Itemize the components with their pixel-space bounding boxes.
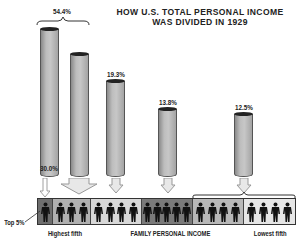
person-icon (56, 202, 65, 222)
person-icon (67, 202, 76, 222)
label-highest-fifth: Highest fifth (48, 230, 82, 237)
annotation-pointer-line (24, 210, 42, 224)
person-icon (283, 202, 292, 222)
person-icon (231, 202, 240, 222)
arrow-down-icon (40, 178, 50, 198)
annotation-top-5: Top 5% (4, 219, 24, 226)
bar-lowest-two-fifths (234, 114, 253, 177)
section-third-fifth (142, 199, 193, 224)
section-lowest-fifth (244, 199, 295, 224)
bar-second-fifth (106, 81, 125, 177)
person-icon (247, 202, 256, 222)
section-rest-highest-fifth (53, 199, 91, 224)
bar-label-second-fifth: 19.3% (107, 71, 125, 78)
person-icon (162, 202, 171, 222)
person-icon (153, 202, 162, 222)
arrow-down-icon (108, 178, 124, 194)
person-icon (143, 202, 152, 222)
bracket-highest-fifth (36, 16, 90, 26)
chart-root: HOW U.S. TOTAL PERSONAL INCOME WAS DIVID… (0, 0, 296, 243)
bracket-label: 54.4% (53, 8, 71, 15)
bar-top-5 (40, 29, 59, 177)
person-icon (208, 202, 217, 222)
person-icon (219, 202, 228, 222)
arrow-down-icon (160, 178, 176, 194)
person-icon (259, 202, 268, 222)
person-icon (271, 202, 280, 222)
person-icon (94, 202, 103, 222)
person-icon (182, 202, 191, 222)
title-line-2: WAS DIVIDED IN 1929 (114, 17, 287, 27)
person-icon (79, 202, 88, 222)
population-strip (37, 198, 296, 225)
person-icon (117, 202, 126, 222)
arrow-down-large-icon (60, 178, 98, 195)
bar-label-top-5: 30.0% (40, 165, 58, 172)
person-icon (196, 202, 205, 222)
bar-label-lowest: 12.5% (235, 104, 253, 111)
section-second-fifth (91, 199, 142, 224)
bar-label-third-fifth: 13.8% (159, 99, 177, 106)
x-axis-label: FAMILY PERSONAL INCOME (130, 230, 210, 237)
bar-third-fifth (158, 109, 177, 177)
label-lowest-fifth: Lowest fifth (254, 230, 287, 237)
person-icon (129, 202, 138, 222)
section-fourth-fifth (193, 199, 244, 224)
bar-rest-highest-fifth (70, 54, 89, 177)
person-icon (172, 202, 181, 222)
chart-title: HOW U.S. TOTAL PERSONAL INCOME WAS DIVID… (114, 7, 287, 27)
person-icon (106, 202, 115, 222)
